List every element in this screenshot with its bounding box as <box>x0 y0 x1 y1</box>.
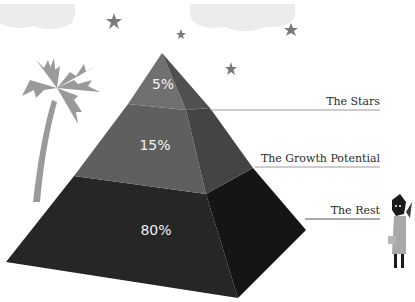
star-icon <box>284 23 298 36</box>
level-middle-percent: 15% <box>125 137 185 153</box>
level-middle-label: The Growth Potential <box>261 152 380 165</box>
level-bottom-label: The Rest <box>331 204 380 217</box>
star-icon <box>225 62 237 75</box>
cloud-icon <box>190 4 295 31</box>
star-icon <box>106 13 122 29</box>
level-bottom-percent: 80% <box>126 222 186 238</box>
level-top-percent: 5% <box>133 76 193 92</box>
star-icon <box>176 29 186 39</box>
cloud-icon <box>0 4 75 29</box>
pyramid-level-bottom-front <box>6 176 238 298</box>
pyramid-diagram: 5% 15% 80% The Stars The Growth Potentia… <box>0 0 415 302</box>
person-figure-icon <box>388 194 412 268</box>
level-top-label: The Stars <box>326 95 380 108</box>
